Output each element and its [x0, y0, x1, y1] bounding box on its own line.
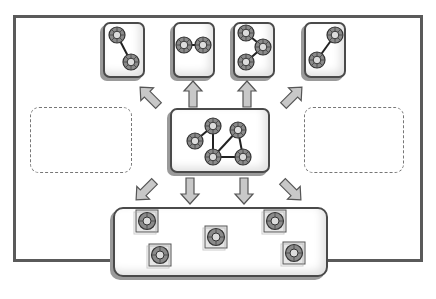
node-pool-tiles	[134, 210, 305, 268]
diagram-graphics	[0, 0, 436, 299]
subgraph-3-graph	[238, 25, 271, 70]
subgraph-4-graph	[309, 27, 343, 68]
central-graph	[187, 118, 251, 165]
arrows-up	[134, 81, 309, 112]
subgraph-2-graph	[176, 37, 211, 53]
subgraph-1-graph	[109, 27, 139, 70]
arrows-down	[130, 175, 308, 206]
